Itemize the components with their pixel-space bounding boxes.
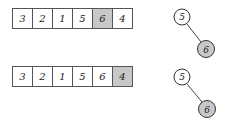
tree-2-edge-5-6 (187, 84, 202, 102)
tree-2-node-6-label: 6 (204, 105, 210, 115)
tree-2: 5 6 (174, 69, 216, 118)
tree-1-edge-5-6 (187, 24, 201, 42)
trees: 5 6 5 6 (0, 0, 230, 127)
tree-2-node-5-label: 5 (179, 72, 185, 82)
tree-1: 5 6 (174, 9, 215, 58)
tree-1-node-5-label: 5 (179, 12, 185, 22)
tree-1-node-6-label: 6 (203, 45, 209, 55)
